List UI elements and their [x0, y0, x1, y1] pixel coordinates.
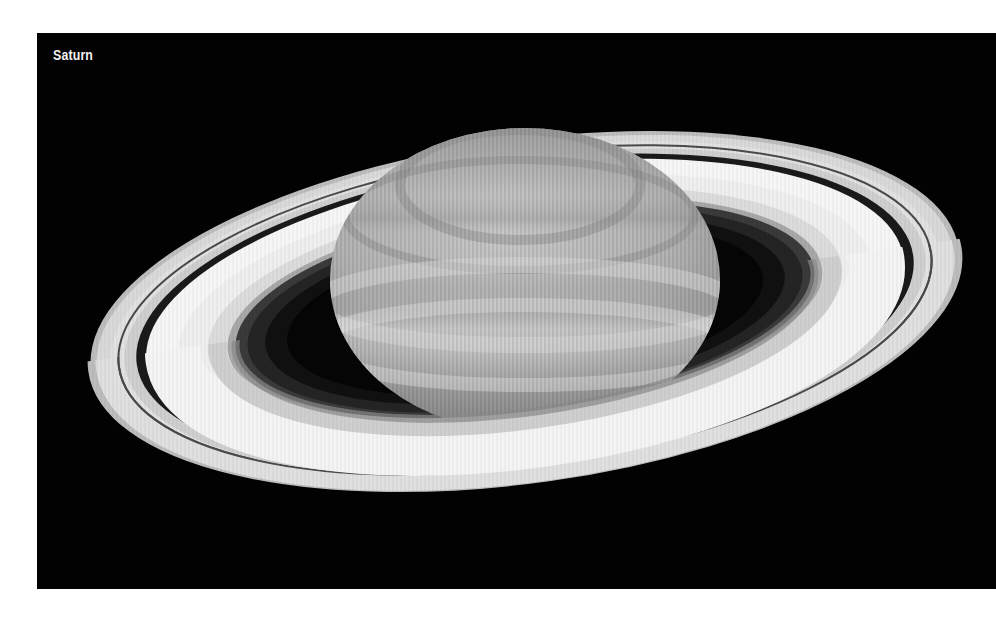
- image-caption: Saturn: [53, 47, 93, 63]
- saturn-illustration: [37, 33, 996, 589]
- saturn-image-panel: Saturn: [37, 33, 996, 589]
